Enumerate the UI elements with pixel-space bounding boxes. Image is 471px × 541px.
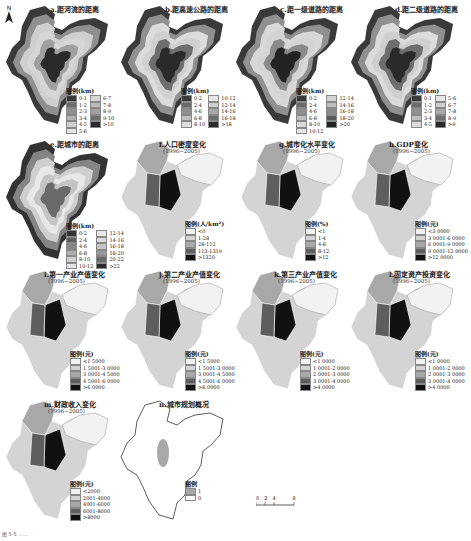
panel-subtitle: (1996~2005) — [278, 278, 315, 284]
north-arrow-icon — [4, 11, 14, 23]
map-legend: 图例(km) 0-11-22-33-44-55-66-77-88-9>9 — [411, 88, 456, 128]
legend-label: 2 0001-3 0000 — [428, 371, 465, 377]
legend-swatch — [296, 128, 307, 135]
legend-label: >4 0000 — [313, 384, 335, 390]
map-legend: 图例(%) <11-44-88-12>12 — [305, 221, 329, 261]
legend-swatch — [435, 121, 446, 128]
legend-label: 4-8 — [318, 241, 326, 247]
map-shape — [235, 135, 353, 267]
map-legend: 图例(元) <1 50001 5001-3 00003 0001-4 50004… — [185, 351, 235, 391]
legend-label: 1-4 — [318, 235, 326, 241]
panel-subtitle: (1996~2005) — [283, 148, 320, 154]
legend-item: >4 0000 — [300, 384, 350, 391]
panel-title: b.距高速公路的距离 — [165, 4, 228, 14]
legend-swatch — [185, 254, 196, 261]
legend-label: >12 0000 — [428, 254, 453, 260]
legend-label: 5-6 — [448, 95, 456, 101]
panel-subtitle: (1996~2005) — [393, 278, 430, 284]
scale-bar-line — [256, 500, 296, 506]
legend-label: 1-28 — [198, 235, 209, 241]
legend-label: 0-2 — [309, 95, 317, 101]
legend-label: 8-10 — [194, 121, 205, 127]
legend-label: 4-6 — [309, 108, 317, 114]
legend-label: 3-4 — [79, 115, 87, 121]
legend-swatch — [411, 121, 422, 128]
legend-label: >9 — [448, 121, 455, 127]
legend-label: >6 0000 — [198, 384, 220, 390]
legend-label: 4-6 — [194, 108, 202, 114]
legend-label: >10 — [103, 121, 114, 127]
map-panel-h: h.GDP变化 (1996~2005) 图例(元) <3 00003 0001-… — [345, 135, 463, 267]
legend-item: 10-12 — [296, 128, 323, 135]
legend-swatch — [305, 254, 316, 261]
panel-subtitle: (1996~2005) — [393, 148, 430, 154]
map-panel-e: e.距城市的距离 图例(km) 0-22-44-66-88-1010-1212-… — [0, 135, 118, 267]
legend-label: 2-4 — [79, 237, 87, 243]
legend-label: 6-7 — [103, 95, 111, 101]
legend-label: 2-3 — [424, 108, 432, 114]
legend-label: 5-6 — [79, 128, 87, 134]
map-legend: 图例(km) 0-11-22-33-44-55-66-77-88-99-10>1… — [66, 88, 114, 134]
map-panel-f: f.人口密度变化 (1996~2005) 图例(人/km²) <01-2828-… — [115, 135, 233, 267]
legend-item: 4-5 — [411, 121, 432, 128]
legend-label: >6 0000 — [83, 384, 105, 390]
north-label: N — [4, 4, 14, 11]
map-shape — [115, 395, 233, 527]
legend-label: 3-4 — [424, 115, 432, 121]
legend-swatch — [300, 384, 311, 391]
legend-label: 2-4 — [194, 102, 202, 108]
legend-label: <1 0000 — [428, 358, 450, 364]
scale-tick: 0 — [256, 495, 259, 501]
legend-label: 6-8 — [309, 115, 317, 121]
legend-item: 0 — [185, 495, 201, 502]
legend-title: 图例(元) — [415, 351, 465, 357]
panel-subtitle: (1996~2005) — [48, 408, 85, 414]
legend-label: 7-8 — [448, 108, 456, 114]
legend-swatch — [90, 121, 101, 128]
map-legend: 图例 10 — [185, 481, 201, 501]
legend-label: <3 0000 — [428, 228, 450, 234]
legend-label: >8000 — [83, 514, 100, 520]
legend-label: >12 — [318, 254, 329, 260]
legend-title: 图例(元) — [300, 351, 350, 357]
legend-label: 7-8 — [103, 102, 111, 108]
panel-title: d.距二级道路的距离 — [395, 4, 458, 14]
legend-swatch — [70, 384, 81, 391]
legend-item: >9 — [435, 121, 456, 128]
legend-title: 图例(km) — [181, 88, 236, 94]
scale-tick: 4 — [272, 495, 275, 501]
map-panel-n: n.城市规划概况 图例 10 — [115, 395, 233, 527]
legend-item: >1320 — [185, 254, 222, 261]
legend-swatch — [70, 514, 81, 521]
map-panel-k: k.第三产业产值变化 (1996~2005) 图例(元) <1 00001 00… — [230, 265, 348, 397]
map-panel-a: a.距河流的距离 图例(km) 0-11-22-33-44-55-66-77-8… — [0, 0, 118, 132]
map-panel-g: g.城市化水平变化 (1996~2005) 图例(%) <11-44-88-12… — [235, 135, 353, 267]
legend-label: 6-8 — [79, 250, 87, 256]
panel-title: e.距城市的距离 — [50, 139, 99, 149]
legend-item: >12 — [305, 254, 329, 261]
panel-subtitle: (1996~2005) — [163, 148, 200, 154]
legend-title: 图例(元) — [70, 351, 120, 357]
legend-swatch — [185, 495, 196, 502]
legend-label: 3 0001-6 0000 — [428, 235, 465, 241]
legend-label: 8-12 — [318, 248, 329, 254]
legend-label: 2-4 — [309, 102, 317, 108]
legend-swatch — [326, 121, 337, 128]
map-panel-b: b.距高速公路的距离 图例(km) 0-22-44-66-88-1010-121… — [115, 0, 233, 132]
legend-swatch — [66, 128, 77, 135]
map-legend: 图例(元) <1 50001 5001-3 00003 0001-4 50004… — [70, 351, 120, 391]
legend-label: 6001-8000 — [83, 508, 110, 514]
legend-swatch — [181, 121, 192, 128]
legend-item: >4 0000 — [415, 384, 465, 391]
figure-caption: 图 5-5 …… — [2, 530, 28, 537]
map-panel-i: i.第一产业产值变化 (1996~2005) 图例(元) <1 50001 50… — [0, 265, 118, 397]
legend-item: >6 0000 — [185, 384, 235, 391]
map-legend: 图例(元) <3 00003 0001-6 00006 0001-9 00009… — [415, 221, 468, 261]
map-legend: 图例(元) <1 00001 0001-2 00002 0001-3 00003… — [300, 351, 350, 391]
legend-label: 8-9 — [103, 108, 111, 114]
legend-label: 6 0001-9 0000 — [428, 241, 465, 247]
map-panel-m: m.财政收入变化 (1996~2005) 图例(元) <20002001-400… — [0, 395, 118, 527]
legend-label: 8-9 — [448, 115, 456, 121]
legend-label: 113-1319 — [198, 248, 222, 254]
legend-label: 2-3 — [79, 108, 87, 114]
